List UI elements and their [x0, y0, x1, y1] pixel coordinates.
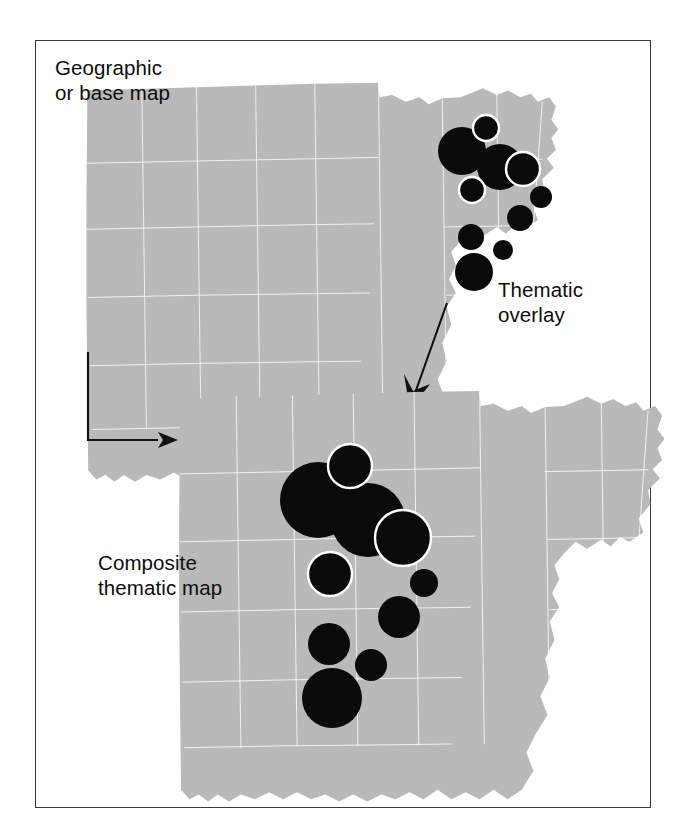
overlay-symbol	[458, 224, 484, 250]
composite-symbol	[378, 596, 420, 638]
thematic-overlay-label: Thematic overlay	[498, 277, 583, 327]
composite-symbol	[308, 623, 350, 665]
overlay-symbol	[493, 240, 513, 260]
composite-map-label: Composite thematic map	[98, 550, 222, 600]
composite-symbol	[302, 668, 362, 728]
overlay-symbol	[455, 253, 493, 291]
figure-canvas	[0, 0, 683, 832]
overlay-symbol	[506, 152, 540, 186]
overlay-symbol	[530, 186, 552, 208]
overlay-symbol	[473, 115, 499, 141]
composite-symbol	[410, 569, 438, 597]
base-map-label: Geographic or base map	[55, 55, 170, 105]
composite-symbol	[308, 552, 352, 596]
composite-symbol	[328, 444, 372, 488]
overlay-symbol	[507, 205, 533, 231]
composite-symbol	[355, 649, 387, 681]
composite-symbol	[375, 510, 431, 566]
thematic-map-figure: Geographic or base map Thematic overlay …	[0, 0, 683, 832]
overlay-symbol	[459, 177, 485, 203]
